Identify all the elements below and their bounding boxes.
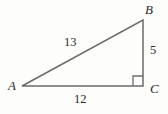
triangle-outline — [22, 20, 143, 86]
side-length-label-base: 12 — [74, 93, 87, 106]
right-angle-marker-icon — [133, 76, 143, 86]
vertex-label-c: C — [150, 82, 159, 95]
side-length-label-hypotenuse: 13 — [64, 36, 77, 49]
vertex-label-b: B — [145, 3, 153, 16]
side-length-label-vertical: 5 — [150, 44, 156, 57]
vertex-label-a: A — [8, 79, 16, 92]
right-triangle-figure: A B C 13 5 12 — [0, 0, 168, 114]
